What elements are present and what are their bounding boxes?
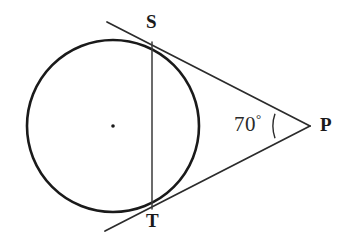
tangent-line-tp [105, 126, 310, 231]
point-label-s: S [146, 12, 157, 31]
angle-measure-value: 70 [234, 112, 256, 136]
angle-measure-label: 70° [234, 112, 261, 135]
degree-symbol: ° [256, 111, 261, 126]
geometry-diagram: S T P 70° [0, 0, 345, 245]
point-label-t: T [146, 211, 159, 230]
diagram-canvas [0, 0, 345, 245]
angle-arc-at-p [273, 114, 275, 138]
tangent-line-sp [107, 22, 310, 126]
circle-center-dot [111, 124, 115, 128]
point-label-p: P [320, 115, 332, 134]
